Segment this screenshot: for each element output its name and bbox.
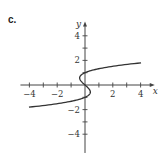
plot-area: −4−22442−2−4xy xyxy=(0,0,164,159)
y-tick-label: −4 xyxy=(67,129,80,139)
y-tick-label: 4 xyxy=(75,31,80,41)
x-tick-label: −2 xyxy=(51,89,64,99)
x-axis-label: x xyxy=(153,86,158,96)
y-tick-label: −2 xyxy=(67,105,80,115)
y-axis-label: y xyxy=(75,19,82,29)
x-tick-label: −4 xyxy=(23,89,36,99)
x-tick-label: 2 xyxy=(110,89,115,99)
x-tick-label: 4 xyxy=(138,89,143,99)
tick-labels: −4−22442−2−4xy xyxy=(23,19,158,140)
y-tick-label: 2 xyxy=(75,55,80,65)
y-axis-arrow-icon xyxy=(83,22,87,27)
